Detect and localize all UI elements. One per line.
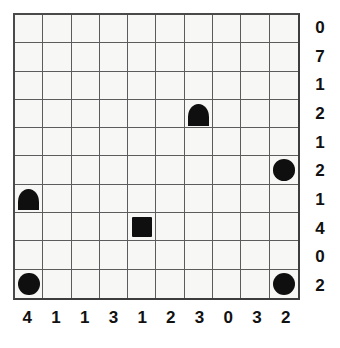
grid-cell[interactable] <box>156 156 184 184</box>
grid-cell[interactable] <box>15 156 43 184</box>
grid-cell[interactable] <box>100 213 128 241</box>
grid-cell[interactable] <box>241 100 269 128</box>
circle-piece[interactable] <box>273 273 296 296</box>
grid-cell[interactable] <box>72 156 100 184</box>
grid-cell[interactable] <box>100 72 128 100</box>
grid-cell[interactable] <box>270 156 298 184</box>
grid-cell[interactable] <box>241 72 269 100</box>
grid-cell[interactable] <box>43 270 71 298</box>
grid-cell[interactable] <box>15 185 43 213</box>
grid-cell[interactable] <box>72 72 100 100</box>
grid-cell[interactable] <box>128 156 156 184</box>
grid-cell[interactable] <box>128 100 156 128</box>
grid-cell[interactable] <box>241 241 269 269</box>
grid-cell[interactable] <box>270 43 298 71</box>
grid-cell[interactable] <box>100 270 128 298</box>
grid-cell[interactable] <box>72 213 100 241</box>
grid-cell[interactable] <box>72 15 100 43</box>
grid-cell[interactable] <box>156 100 184 128</box>
grid-cell[interactable] <box>213 241 241 269</box>
grid-cell[interactable] <box>270 185 298 213</box>
grid-cell[interactable] <box>128 270 156 298</box>
grid-cell[interactable] <box>185 213 213 241</box>
grid-cell[interactable] <box>43 128 71 156</box>
grid-cell[interactable] <box>43 185 71 213</box>
grid-cell[interactable] <box>270 15 298 43</box>
grid-cell[interactable] <box>72 241 100 269</box>
square-piece[interactable] <box>132 217 152 237</box>
grid-cell[interactable] <box>185 241 213 269</box>
grid-cell[interactable] <box>156 43 184 71</box>
grid-cell[interactable] <box>156 15 184 43</box>
grid-cell[interactable] <box>15 43 43 71</box>
grid-cell[interactable] <box>43 213 71 241</box>
grid-cell[interactable] <box>15 100 43 128</box>
grid-cell[interactable] <box>100 241 128 269</box>
grid-cell[interactable] <box>213 213 241 241</box>
grid-cell[interactable] <box>241 43 269 71</box>
grid-cell[interactable] <box>241 270 269 298</box>
grid-cell[interactable] <box>100 43 128 71</box>
grid-cell[interactable] <box>241 185 269 213</box>
grid-cell[interactable] <box>270 241 298 269</box>
grid-cell[interactable] <box>270 270 298 298</box>
grid-cell[interactable] <box>213 128 241 156</box>
grid-cell[interactable] <box>100 185 128 213</box>
grid-cell[interactable] <box>43 72 71 100</box>
grid-cell[interactable] <box>15 128 43 156</box>
grid-cell[interactable] <box>185 128 213 156</box>
grid-cell[interactable] <box>128 72 156 100</box>
grid-cell[interactable] <box>156 241 184 269</box>
grid-cell[interactable] <box>213 43 241 71</box>
grid-cell[interactable] <box>213 156 241 184</box>
grid-cell[interactable] <box>185 100 213 128</box>
dome-piece[interactable] <box>188 104 209 126</box>
grid-cell[interactable] <box>128 15 156 43</box>
grid-cell[interactable] <box>128 185 156 213</box>
grid-cell[interactable] <box>270 128 298 156</box>
grid-cell[interactable] <box>213 72 241 100</box>
grid-cell[interactable] <box>43 100 71 128</box>
grid-cell[interactable] <box>15 72 43 100</box>
grid-cell[interactable] <box>185 185 213 213</box>
grid-cell[interactable] <box>43 241 71 269</box>
grid-cell[interactable] <box>156 213 184 241</box>
grid-cell[interactable] <box>213 270 241 298</box>
grid-cell[interactable] <box>15 15 43 43</box>
grid-cell[interactable] <box>72 185 100 213</box>
grid-cell[interactable] <box>241 128 269 156</box>
grid-cell[interactable] <box>100 156 128 184</box>
grid-cell[interactable] <box>128 128 156 156</box>
grid-cell[interactable] <box>241 213 269 241</box>
grid-cell[interactable] <box>241 15 269 43</box>
grid-cell[interactable] <box>72 100 100 128</box>
grid-cell[interactable] <box>100 15 128 43</box>
grid-cell[interactable] <box>100 100 128 128</box>
grid-cell[interactable] <box>156 72 184 100</box>
grid-cell[interactable] <box>185 156 213 184</box>
circle-piece[interactable] <box>273 159 296 181</box>
grid-cell[interactable] <box>100 128 128 156</box>
grid-cell[interactable] <box>15 241 43 269</box>
grid-cell[interactable] <box>213 100 241 128</box>
grid-cell[interactable] <box>185 270 213 298</box>
grid-cell[interactable] <box>128 43 156 71</box>
puzzle-grid[interactable] <box>13 13 300 300</box>
grid-cell[interactable] <box>72 270 100 298</box>
grid-cell[interactable] <box>185 43 213 71</box>
circle-piece[interactable] <box>18 273 40 296</box>
grid-cell[interactable] <box>213 185 241 213</box>
grid-cell[interactable] <box>15 213 43 241</box>
grid-cell[interactable] <box>72 128 100 156</box>
grid-cell[interactable] <box>241 156 269 184</box>
grid-cell[interactable] <box>15 270 43 298</box>
grid-cell[interactable] <box>156 185 184 213</box>
grid-cell[interactable] <box>213 15 241 43</box>
grid-cell[interactable] <box>185 15 213 43</box>
grid-cell[interactable] <box>128 213 156 241</box>
grid-cell[interactable] <box>43 43 71 71</box>
grid-cell[interactable] <box>156 128 184 156</box>
grid-cell[interactable] <box>156 270 184 298</box>
grid-cell[interactable] <box>72 43 100 71</box>
grid-cell[interactable] <box>270 213 298 241</box>
